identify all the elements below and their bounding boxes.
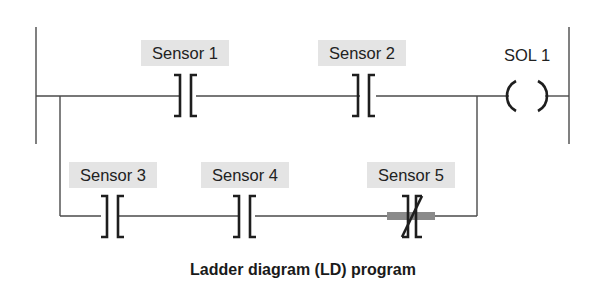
contact-label: Sensor 2: [329, 44, 395, 62]
contact-sensor-3: Sensor 3: [69, 162, 157, 237]
contact-sensor-5: Sensor 5: [367, 162, 455, 237]
contact-label: Sensor 5: [378, 166, 444, 184]
contact-label: Sensor 1: [152, 44, 218, 62]
ladder-diagram: Sensor 1 Sensor 2 SOL 1 Sensor 3 Sensor …: [0, 0, 611, 288]
contact-sensor-2: Sensor 2: [318, 40, 406, 116]
coil-label: SOL 1: [504, 46, 550, 64]
no-contact-icon: [101, 196, 107, 237]
output-coil-sol-1: SOL 1: [504, 46, 550, 111]
contact-sensor-1: Sensor 1: [141, 40, 229, 116]
contact-sensor-4: Sensor 4: [201, 162, 289, 237]
contact-label: Sensor 4: [212, 166, 278, 184]
diagram-caption: Ladder diagram (LD) program: [190, 261, 416, 278]
contact-label: Sensor 3: [80, 166, 146, 184]
branch-rung: [60, 96, 477, 216]
